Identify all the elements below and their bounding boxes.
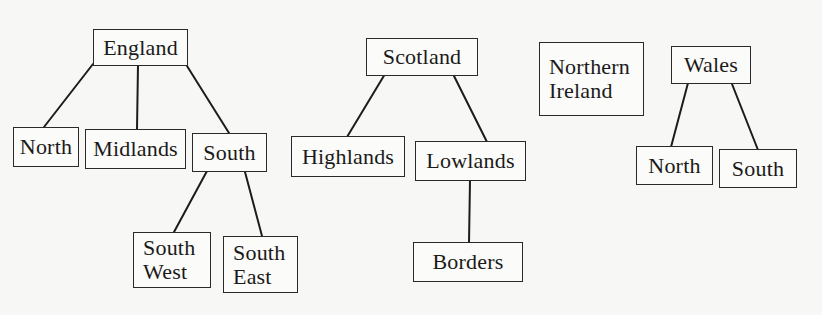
node-label: Scotland [383,46,462,68]
edge-scotland-lowlands [454,76,487,142]
node-northern-ireland: Northern Ireland [539,42,644,116]
edge-lowlands-borders [469,180,470,243]
node-label: North [648,155,700,177]
node-label: South [732,158,784,180]
node-england-south: South [192,133,267,172]
edge-england-north [44,64,93,127]
node-label: South [203,142,255,164]
edge-south-southeast [245,172,262,236]
edge-england-south [187,66,229,133]
node-label: Lowlands [426,150,514,172]
node-label-line-2: Ireland [549,79,613,103]
node-south-west: South West [133,232,211,288]
node-lowlands: Lowlands [415,141,526,181]
edge-wales-north [671,83,688,147]
node-borders: Borders [413,242,523,282]
node-label-line-1: Northern [549,55,630,79]
node-label-line-1: South [143,236,195,260]
edge-scotland-highlands [347,74,385,137]
node-england-north: North [13,127,79,167]
node-wales-south: South [719,149,797,188]
node-england: England [93,29,188,66]
node-england-midlands: Midlands [85,129,186,169]
node-label: England [103,37,178,59]
node-label: Midlands [93,138,178,160]
edge-south-southwest [174,171,207,232]
node-label-line-2: West [143,260,187,284]
edge-england-midlands [137,65,138,129]
node-south-east: South East [223,236,298,293]
node-wales-north: North [636,146,713,185]
edge-wales-south [732,84,758,150]
region-hierarchy-diagram: England North Midlands South South West … [0,0,822,315]
node-label: Highlands [302,146,394,168]
node-label: Borders [432,251,503,273]
node-label-line-1: South [233,241,285,265]
node-highlands: Highlands [291,136,405,177]
node-label: North [20,136,72,158]
node-label-line-2: East [233,265,272,289]
node-wales: Wales [671,46,751,84]
node-label: Wales [684,54,738,76]
node-scotland: Scotland [366,38,478,76]
